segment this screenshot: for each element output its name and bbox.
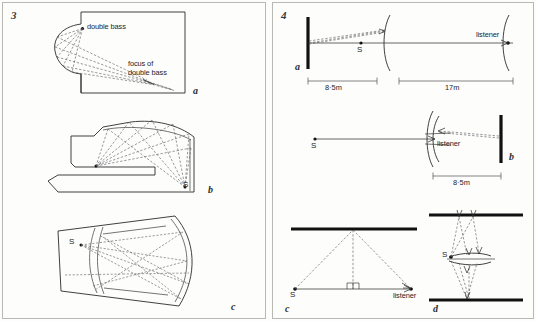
figure-3c-label: c: [231, 301, 235, 312]
figure-3-panel: 3 do: [2, 2, 266, 319]
figure-4d-source-label: S: [442, 251, 447, 260]
figure-sheet: 3 do: [0, 0, 536, 321]
figure-3c-source-label: S: [69, 238, 74, 247]
figure-4-panel: 4: [272, 2, 534, 319]
figure-4d-label: d: [433, 303, 438, 314]
figure-3c-drawing: [3, 3, 265, 319]
figure-4d-drawing: [273, 3, 533, 319]
